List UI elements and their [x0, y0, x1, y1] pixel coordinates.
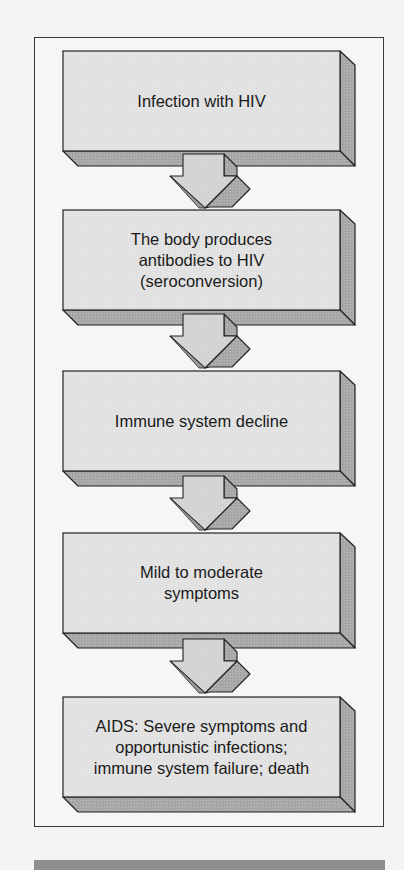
step-label-seroconversion: The body produces antibodies to HIV (ser… [63, 210, 340, 310]
step-label-mild-symptoms: Mild to moderate symptoms [63, 533, 340, 633]
step-label-immune-decline: Immune system decline [63, 371, 340, 471]
bottom-rule [34, 860, 385, 870]
step-label-infection: Infection with HIV [63, 51, 340, 151]
step-label-aids: AIDS: Severe symptoms and opportunistic … [63, 697, 340, 797]
